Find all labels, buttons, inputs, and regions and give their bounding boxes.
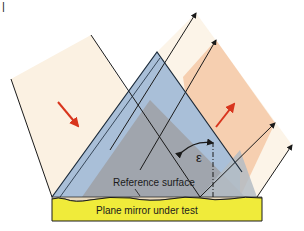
reference-surface-label: Reference surface — [113, 177, 195, 188]
mirror-label: Plane mirror under test — [96, 205, 198, 216]
angle-label: ε — [196, 150, 202, 165]
interferometer-diagram: | ε Reference surface Plane mirror under… — [0, 0, 304, 231]
panel-mark: | — [2, 0, 5, 12]
